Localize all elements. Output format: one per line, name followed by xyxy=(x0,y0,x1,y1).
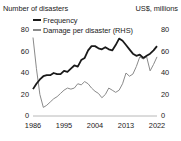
y-tick-right-40: 40 xyxy=(161,69,169,77)
x-tick-2004: 2004 xyxy=(87,122,103,130)
x-tick-2013: 2013 xyxy=(118,122,134,130)
series-line-damage xyxy=(33,38,157,108)
y-tick-left-40: 40 xyxy=(21,69,29,77)
y-tick-left-20: 20 xyxy=(21,91,29,99)
x-tick-1986: 1986 xyxy=(25,122,41,130)
y-tick-right-60: 60 xyxy=(161,48,169,56)
y-tick-left-0: 0 xyxy=(25,112,29,120)
y-tick-left-60: 60 xyxy=(21,48,29,56)
disasters-chart-figure: Number of disasters US$, millions Freque… xyxy=(0,0,181,141)
x-tick-1995: 1995 xyxy=(56,122,72,130)
y-tick-right-80: 80 xyxy=(161,26,169,34)
y-tick-left-80: 80 xyxy=(21,26,29,34)
y-tick-right-20: 20 xyxy=(161,91,169,99)
x-tick-2022: 2022 xyxy=(149,122,165,130)
series-line-frequency xyxy=(33,39,157,90)
y-tick-right-0: 0 xyxy=(161,112,165,120)
